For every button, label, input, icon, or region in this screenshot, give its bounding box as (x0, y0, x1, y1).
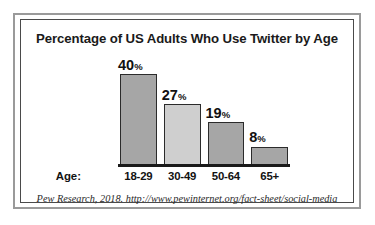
category-label-65-plus: 65+ (251, 170, 288, 182)
bar-group: 40% 27% 19% 8% (120, 62, 288, 165)
plot-area: 40% 27% 19% 8% (120, 62, 288, 165)
figure-inner-frame: Percentage of US Adults Who Use Twitter … (20, 19, 354, 203)
bar-value-label: 19% (206, 106, 231, 121)
bar-slot-65-plus: 8% (251, 62, 288, 165)
category-label-50-64: 50-64 (208, 170, 245, 182)
bar-slot-18-29: 40% (120, 62, 157, 165)
bar-slot-50-64: 19% (208, 62, 245, 165)
category-label-30-49: 30-49 (164, 170, 201, 182)
bar-18-29[interactable] (120, 74, 157, 166)
percent-sign: % (222, 109, 230, 120)
category-label-18-29: 18-29 (120, 170, 157, 182)
source-citation: Pew Research, 2018. http://www.pewintern… (21, 193, 353, 204)
axis-label-age: Age: (56, 170, 81, 182)
bar-slot-30-49: 27% (164, 62, 201, 165)
bar-50-64[interactable] (208, 122, 245, 166)
bar-value-label: 8% (249, 130, 266, 145)
bar-value-label: 27% (162, 88, 187, 103)
chart-title: Percentage of US Adults Who Use Twitter … (21, 31, 353, 46)
percent-sign: % (134, 61, 142, 72)
category-label-row: 18-29 30-49 50-64 65+ (120, 170, 288, 182)
bar-value-number: 27 (162, 87, 178, 103)
bar-value-number: 19 (206, 105, 222, 121)
bar-30-49[interactable] (164, 104, 201, 166)
percent-sign: % (257, 133, 265, 144)
figure-outer-frame: Percentage of US Adults Who Use Twitter … (13, 13, 361, 209)
percent-sign: % (178, 91, 186, 102)
bar-value-number: 40 (118, 57, 134, 73)
bar-value-label: 40% (118, 58, 143, 73)
bar-65-plus[interactable] (251, 147, 288, 166)
axis-baseline (118, 164, 290, 167)
